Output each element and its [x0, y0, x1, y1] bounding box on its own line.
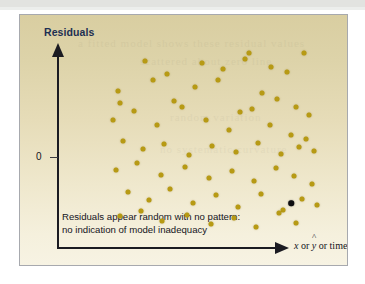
scatter-dot — [243, 57, 248, 62]
scatter-plot-area: Residuals 0 x or ^y or time Residuals ap… — [20, 15, 347, 265]
scatter-dot — [150, 78, 155, 83]
scatter-dot — [190, 201, 195, 206]
x-axis-var-yhat: ^y — [312, 240, 316, 251]
scatter-dot — [285, 70, 290, 75]
scatter-dot — [193, 84, 198, 89]
scatter-dot — [158, 172, 163, 177]
scatter-dot — [143, 59, 148, 64]
scatter-dot — [291, 174, 296, 179]
scatter-dot — [231, 215, 236, 220]
figure-frame: a fitted model shows these residual valu… — [19, 14, 348, 266]
scatter-dot — [236, 204, 241, 209]
scatter-dot — [118, 100, 123, 105]
y-axis-arrow-icon — [52, 43, 64, 57]
scatter-dot-highlighted — [288, 201, 294, 207]
figure-caption: Residuals appear random with no pattern:… — [62, 211, 240, 236]
scatter-dot — [214, 193, 219, 198]
scatter-dot — [312, 148, 317, 153]
scatter-dot — [180, 105, 185, 110]
x-axis-title: x or ^y or time — [294, 240, 347, 251]
x-axis-arrow-icon — [275, 242, 289, 254]
scatter-dot — [294, 220, 299, 225]
scatter-dot — [125, 190, 130, 195]
y-axis-line — [57, 55, 59, 249]
scatter-dot — [289, 132, 294, 137]
scatter-dot — [204, 118, 209, 123]
scatter-dot — [208, 222, 213, 227]
scatter-dot — [185, 212, 190, 217]
scatter-dot — [215, 78, 220, 83]
scatter-dot — [309, 182, 314, 187]
scatter-dot — [162, 142, 167, 147]
scatter-dot — [210, 143, 215, 148]
scatter-dot — [111, 118, 116, 123]
scatter-dot — [252, 179, 257, 184]
scatter-dot — [256, 140, 261, 145]
scatter-dot — [267, 123, 272, 128]
scan-artifact-band-secondary — [0, 7, 365, 10]
scatter-dot — [299, 196, 304, 201]
scatter-dot — [301, 51, 306, 56]
x-axis-line — [57, 247, 279, 249]
scatter-dot — [297, 145, 302, 150]
scatter-dot — [230, 169, 235, 174]
scatter-dot — [294, 105, 299, 110]
scatter-dot — [131, 108, 136, 113]
scan-artifact-band — [0, 0, 365, 7]
scatter-dot — [259, 91, 264, 96]
scatter-dot — [274, 97, 279, 102]
scatter-dot — [115, 89, 120, 94]
scatter-dot — [279, 151, 284, 156]
scatter-dot — [138, 209, 143, 214]
scatter-dot — [306, 113, 311, 118]
scatter-dot — [233, 150, 238, 155]
x-axis-conjunction-1: or — [298, 240, 311, 251]
scatter-dot — [199, 60, 204, 65]
scatter-dot — [247, 51, 252, 56]
scatter-dot — [113, 167, 118, 172]
scatter-dot — [147, 198, 152, 203]
scatter-dot — [221, 67, 226, 72]
scatter-dot — [187, 153, 192, 158]
scatter-dot — [121, 139, 126, 144]
scatter-dot — [277, 211, 282, 216]
scatter-dot — [206, 175, 211, 180]
scatter-dot — [168, 187, 173, 192]
scatter-dot — [314, 203, 319, 208]
scatter-dot — [135, 161, 140, 166]
y-axis-zero-label: 0 — [36, 151, 42, 162]
y-axis-zero-tick — [50, 157, 58, 158]
hat-accent-icon: ^ — [312, 233, 316, 242]
scatter-dot — [254, 225, 259, 230]
caption-line-2: no indication of model inadequacy — [62, 224, 240, 237]
scatter-dot — [160, 219, 165, 224]
scatter-dot — [172, 99, 177, 104]
scatter-dot — [304, 137, 309, 142]
scatter-dot — [258, 191, 263, 196]
scatter-dot — [273, 166, 278, 171]
scatter-dot — [164, 71, 169, 76]
scatter-dot — [155, 123, 160, 128]
caption-line-1: Residuals appear random with no pattern: — [62, 211, 240, 224]
scatter-dot — [140, 147, 145, 152]
scatter-dot — [227, 127, 232, 132]
y-axis-title: Residuals — [44, 26, 95, 38]
scatter-dot — [238, 110, 243, 115]
scatter-dot — [269, 65, 274, 70]
scatter-dot — [249, 107, 254, 112]
x-axis-conjunction-2: or time — [316, 240, 347, 251]
scatter-dot — [117, 214, 122, 219]
scatter-dot — [182, 164, 187, 169]
